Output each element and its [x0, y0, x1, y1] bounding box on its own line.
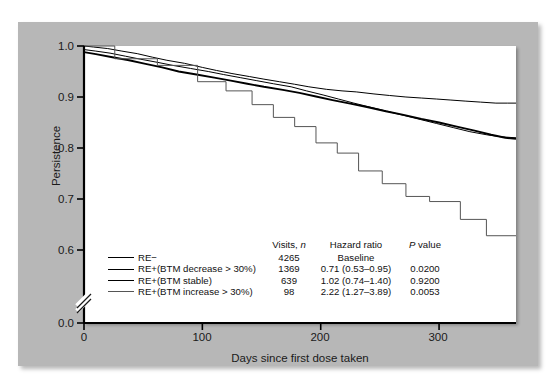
y-tick-label-1: 1.0 [34, 40, 74, 52]
legend-line-swatch-icon [108, 275, 138, 286]
legend-p-value: 0.0200 [402, 263, 448, 274]
legend-hazard-ratio: Baseline [310, 252, 402, 263]
legend-label: RE+(BTM increase > 30%) [138, 286, 268, 297]
legend-label: RE+(BTM decrease > 30%) [138, 263, 268, 274]
legend-table: Visits, n Hazard ratio P value RE−4265Ba… [108, 239, 448, 297]
legend-header-visits: Visits, n [268, 239, 310, 252]
legend-line-swatch-icon [108, 286, 138, 297]
legend-p-value: 0.0053 [402, 286, 448, 297]
legend-header-pvalue: P value [402, 239, 448, 252]
legend-header-pvalue-text: value [418, 239, 441, 250]
y-tick-label-5: 0.6 [34, 244, 74, 256]
legend-visits: 4265 [268, 252, 310, 263]
legend-body: RE−4265BaselineRE+(BTM decrease > 30%)13… [108, 252, 448, 297]
legend-line-swatch-icon [108, 263, 138, 274]
legend-header-hazard: Hazard ratio [310, 239, 402, 252]
y-tick-label-6: 0.0 [34, 317, 74, 329]
legend: Visits, n Hazard ratio P value RE−4265Ba… [108, 239, 448, 297]
legend-hazard-ratio: 1.02 (0.74–1.40) [310, 275, 402, 286]
legend-row: RE+(BTM increase > 30%)982.22 (1.27–3.89… [108, 286, 448, 297]
legend-row: RE+(BTM stable)6391.02 (0.74–1.40)0.9200 [108, 275, 448, 286]
legend-label: RE+(BTM stable) [138, 275, 268, 286]
survival-curve-figure: 1.0 0.9 0.8 0.7 0.6 0.0 0 100 200 300 Pe… [0, 0, 556, 388]
legend-row: RE−4265Baseline [108, 252, 448, 263]
legend-p-value [402, 252, 448, 263]
legend-hazard-ratio: 0.71 (0.53–0.95) [310, 263, 402, 274]
legend-visits: 98 [268, 286, 310, 297]
legend-header-swatch [108, 239, 138, 252]
legend-header-pvalue-italic: P [409, 239, 415, 250]
legend-row: RE+(BTM decrease > 30%)13690.71 (0.53–0.… [108, 263, 448, 274]
legend-header-row: Visits, n Hazard ratio P value [108, 239, 448, 252]
legend-header-group [138, 239, 268, 252]
x-tick-label-1: 0 [59, 331, 109, 343]
legend-visits: 639 [268, 275, 310, 286]
x-tick-label-4: 300 [413, 331, 463, 343]
legend-p-value: 0.9200 [402, 275, 448, 286]
legend-visits: 1369 [268, 263, 310, 274]
legend-line-swatch-icon [108, 252, 138, 263]
legend-header-visits-italic: n [300, 239, 305, 250]
x-tick-label-2: 100 [177, 331, 227, 343]
legend-label: RE− [138, 252, 268, 263]
x-axis-title: Days since first dose taken [84, 352, 516, 364]
y-axis-title: Persistence [50, 96, 62, 216]
x-tick-label-3: 200 [295, 331, 345, 343]
legend-hazard-ratio: 2.22 (1.27–3.89) [310, 286, 402, 297]
